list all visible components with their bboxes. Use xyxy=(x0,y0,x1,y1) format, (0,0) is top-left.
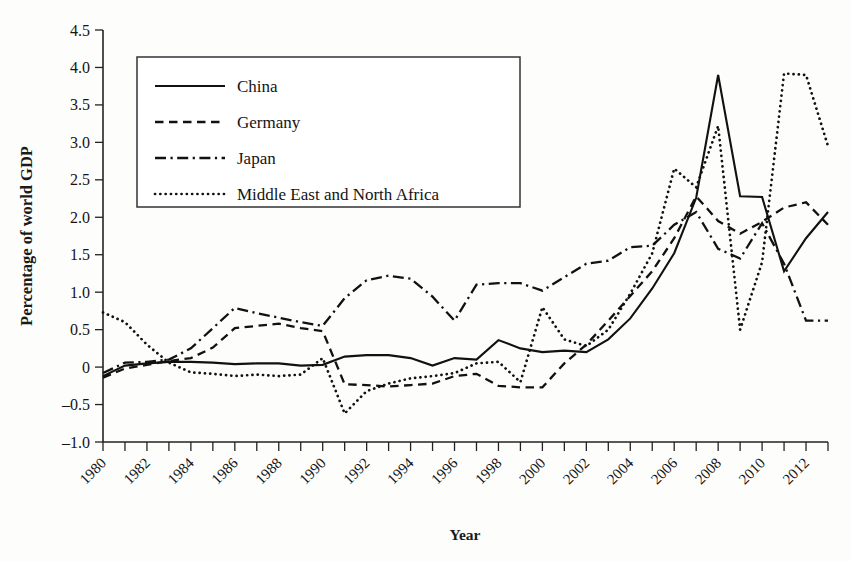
x-tick-label: 1998 xyxy=(472,455,505,488)
x-tick-label: 1982 xyxy=(121,455,154,488)
y-tick-label: 4.0 xyxy=(70,59,90,76)
x-tick-label: 1990 xyxy=(296,455,329,488)
line-chart: 4.54.03.53.02.52.01.51.00.50–0.5–1.0 198… xyxy=(0,0,851,561)
y-tick-label: –0.5 xyxy=(61,396,90,413)
x-tick-label: 1980 xyxy=(77,455,110,488)
legend-label-germany: Germany xyxy=(237,113,301,132)
y-axis-title: Percentage of world GDP xyxy=(17,146,36,326)
x-tick-label: 2006 xyxy=(648,454,681,487)
x-tick-label: 2008 xyxy=(692,455,725,488)
x-axis-title: Year xyxy=(450,526,481,543)
x-tick-label: 1996 xyxy=(428,454,461,487)
y-tick-label: 0 xyxy=(82,359,90,376)
y-tick-label: 2.0 xyxy=(70,209,90,226)
y-tick-label: –1.0 xyxy=(61,434,90,451)
y-axis-ticks: 4.54.03.53.02.52.01.51.00.50–0.5–1.0 xyxy=(61,22,103,451)
x-tick-label: 2012 xyxy=(780,455,813,488)
y-tick-label: 0.5 xyxy=(70,321,90,338)
x-tick-label: 1988 xyxy=(252,455,285,488)
y-tick-label: 1.5 xyxy=(70,246,90,263)
x-tick-label: 2004 xyxy=(604,454,637,487)
x-tick-label: 1994 xyxy=(384,454,417,487)
x-tick-label: 1986 xyxy=(208,454,241,487)
y-tick-label: 4.5 xyxy=(70,22,90,39)
y-tick-label: 3.0 xyxy=(70,134,90,151)
legend-label-japan: Japan xyxy=(237,149,276,168)
x-tick-label: 2000 xyxy=(516,455,549,488)
x-axis-ticks: 1980198219841986198819901992199419961998… xyxy=(77,442,828,487)
x-tick-label: 1992 xyxy=(340,455,373,488)
chart-page: 4.54.03.53.02.52.01.51.00.50–0.5–1.0 198… xyxy=(0,0,851,561)
y-tick-label: 2.5 xyxy=(70,171,90,188)
x-tick-label: 1984 xyxy=(164,454,197,487)
x-tick-label: 2002 xyxy=(560,455,593,488)
legend-label-china: China xyxy=(237,77,278,96)
y-tick-label: 3.5 xyxy=(70,96,90,113)
y-tick-label: 1.0 xyxy=(70,284,90,301)
x-tick-label: 2010 xyxy=(736,455,769,488)
legend-label-middle-east-and-north-africa: Middle East and North Africa xyxy=(237,185,440,204)
